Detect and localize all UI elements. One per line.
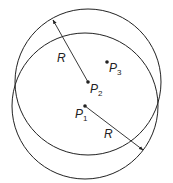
label-p3: P3 xyxy=(109,61,122,77)
radius-label-lower: R xyxy=(104,127,113,141)
label-p1: P1 xyxy=(75,107,88,123)
label-p2: P2 xyxy=(90,82,103,98)
radius-label-upper: R xyxy=(57,51,66,65)
two-circles-diagram: R R P1 P2 P3 xyxy=(0,0,173,183)
point-p1 xyxy=(83,104,87,108)
radius-arrow-lower xyxy=(85,106,143,150)
